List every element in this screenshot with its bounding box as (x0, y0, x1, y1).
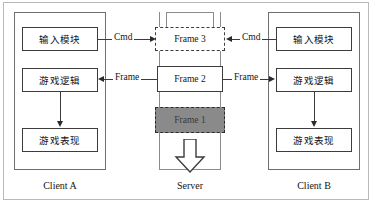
client-a-logic-to-view-line (60, 92, 61, 122)
cmd-a-label: Cmd (112, 32, 134, 42)
frame-to-a-label: Frame (113, 72, 141, 82)
frame-to-b-label: Frame (232, 72, 260, 82)
client-a-game-presentation[interactable]: 游戏表现 (22, 128, 98, 152)
server-frame-3[interactable]: Frame 3 (155, 27, 225, 51)
client-a-logic-to-view-arrowhead-icon (57, 121, 63, 127)
server-frame-2[interactable]: Frame 2 (157, 66, 223, 92)
server-frame-1[interactable]: Frame 1 (155, 107, 225, 133)
client-a-game-logic[interactable]: 游戏逻辑 (22, 68, 98, 92)
caption-client-a: Client A (14, 180, 106, 191)
client-b-logic-to-view-arrowhead-icon (311, 121, 317, 127)
cmd-b-label: Cmd (240, 32, 262, 42)
client-a-input-module[interactable]: 输入模块 (22, 27, 98, 51)
frame-dispatch-arrow-icon (172, 139, 208, 173)
client-b-logic-to-view-line (314, 92, 315, 122)
frame-to-a-arrowhead-icon (98, 76, 104, 82)
client-b-game-logic[interactable]: 游戏逻辑 (276, 68, 352, 92)
diagram-canvas: 输入模块 游戏逻辑 游戏表现 输入模块 游戏逻辑 游戏表现 Frame 3 Fr… (0, 0, 374, 204)
client-b-input-module[interactable]: 输入模块 (276, 27, 352, 51)
frame-to-b-arrowhead-icon (269, 76, 275, 82)
caption-server: Server (159, 180, 221, 191)
cmd-b-arrowhead-icon (226, 36, 232, 42)
caption-client-b: Client B (268, 180, 360, 191)
client-b-game-presentation[interactable]: 游戏表现 (276, 128, 352, 152)
server-stack-cap (166, 12, 214, 28)
